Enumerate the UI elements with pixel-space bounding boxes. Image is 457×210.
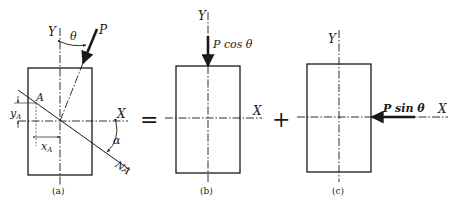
x-axis-label: X (116, 107, 126, 121)
xa-label: xA (41, 140, 52, 154)
force-p-cos-label: P cos θ (212, 38, 253, 51)
ya-label: yA (9, 107, 21, 121)
panel-a: Y X P θ NA A yA xA α (a) (9, 23, 133, 196)
neutral-axis-line (18, 90, 130, 170)
force-p-arrow (83, 29, 97, 63)
y-axis-label: Y (198, 9, 207, 23)
caption-b: (b) (200, 186, 213, 196)
x-axis-label: X (437, 102, 447, 116)
x-axis-label: X (252, 104, 262, 118)
theta-label: θ (70, 30, 77, 43)
panel-b: Y X P cos θ (b) (165, 9, 262, 196)
force-p-sin-label: P sin θ (382, 102, 425, 115)
caption-a: (a) (52, 186, 64, 196)
force-p-label: P (98, 23, 108, 37)
y-axis-label: Y (328, 32, 337, 46)
neutral-axis-label: NA (112, 158, 132, 177)
point-a-label: A (35, 91, 44, 104)
alpha-label: α (113, 134, 121, 147)
y-axis-label: Y (48, 25, 57, 39)
equals-sign: = (140, 107, 158, 132)
beam-section-diagram: Y X P θ NA A yA xA α (a) = Y (0, 0, 457, 210)
plus-sign: + (272, 107, 290, 132)
caption-c: (c) (332, 186, 344, 196)
panel-c: Y X P sin θ (c) (297, 30, 448, 196)
line-of-action (60, 63, 83, 121)
